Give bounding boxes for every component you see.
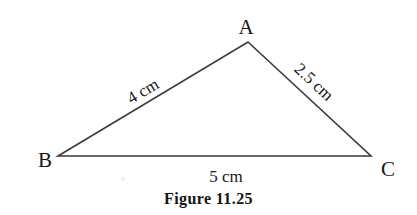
figure-container: A B C 4 cm 2.5 cm 5 cm Figure 11.25 [0, 0, 417, 215]
scan-artifact-speck [121, 177, 125, 181]
vertex-label-b: B [38, 150, 52, 171]
vertex-label-c: C [381, 159, 395, 180]
side-label-bc: 5 cm [209, 168, 243, 185]
figure-caption: Figure 11.25 [0, 190, 417, 208]
vertex-label-a: A [238, 17, 253, 38]
